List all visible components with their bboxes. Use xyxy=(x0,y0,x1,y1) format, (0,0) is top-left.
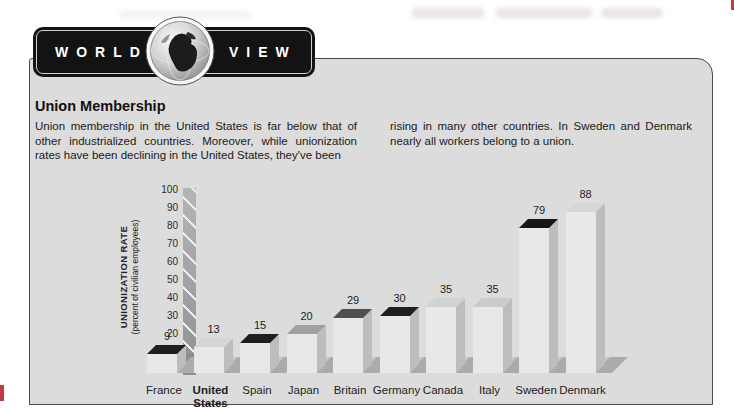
bar-side-face xyxy=(456,298,465,373)
bar-value-label: 15 xyxy=(240,319,280,331)
bar-value-label: 29 xyxy=(333,294,373,306)
category-label-line: States xyxy=(184,397,238,409)
globe-icon xyxy=(145,16,215,86)
bar-front-face xyxy=(147,354,177,373)
bar-value-label: 79 xyxy=(519,204,559,216)
y-tick-label: 30 xyxy=(142,310,178,321)
bar-side-face xyxy=(596,203,605,373)
bar-side-face xyxy=(410,307,419,373)
bar-value-label: 35 xyxy=(473,283,513,295)
y-axis-title-main: UNIONIZATION RATE xyxy=(118,160,130,394)
y-tick-label: 100 xyxy=(142,184,178,195)
y-tick-label: 70 xyxy=(142,238,178,249)
banner-word-view: VIEW xyxy=(229,27,297,77)
category-label: Denmark xyxy=(556,384,610,397)
bar-front-face xyxy=(519,228,549,373)
bar-value-label: 13 xyxy=(194,323,234,335)
y-tick-label: 40 xyxy=(142,292,178,303)
y-tick-label: 90 xyxy=(142,202,178,213)
bar-value-label: 88 xyxy=(566,188,606,200)
bar-front-face xyxy=(473,307,503,373)
bar-front-face xyxy=(426,307,456,373)
bar-side-face xyxy=(549,219,558,373)
bar-value-label: 20 xyxy=(287,310,327,322)
bar-side-face xyxy=(363,309,372,373)
y-tick-label: 60 xyxy=(142,256,178,267)
bar-front-face xyxy=(380,316,410,373)
bar-value-label: 30 xyxy=(380,292,420,304)
bar-front-face xyxy=(333,318,363,373)
category-label-line: Denmark xyxy=(556,384,610,397)
y-axis-title-sub: (percent of civilian employees) xyxy=(130,160,141,394)
bar-front-face xyxy=(194,347,224,373)
bar-value-label: 9 xyxy=(147,330,187,342)
bar-front-face xyxy=(287,334,317,373)
y-tick-label: 50 xyxy=(142,274,178,285)
bar-front-face xyxy=(566,212,596,373)
bar-side-face xyxy=(503,298,512,373)
y-tick-label: 80 xyxy=(142,220,178,231)
banner-word-world: WORLD xyxy=(55,27,148,77)
page-edge-red-mark xyxy=(0,385,4,401)
bar-front-face xyxy=(240,343,270,373)
bar-value-label: 35 xyxy=(426,283,466,295)
